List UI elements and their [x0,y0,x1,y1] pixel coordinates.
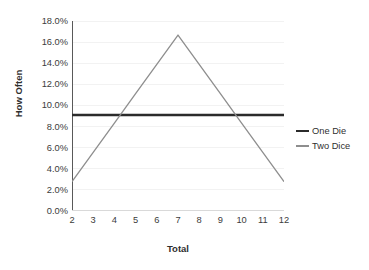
legend-item-label: Two Dice [312,140,350,152]
gridlines [72,21,284,190]
y-tick-label: 2.0% [22,185,68,195]
x-axis-title: Total [72,243,284,254]
plot-svg [72,21,284,211]
legend-item-one-die[interactable]: One Die [296,124,369,138]
y-axis-tick-labels: 0.0%2.0%4.0%6.0%8.0%10.0%12.0%14.0%16.0%… [22,16,68,210]
y-tick-label: 4.0% [22,164,68,174]
y-tick-label: 16.0% [22,37,68,47]
y-tick-label: 10.0% [22,100,68,110]
series-lines [72,35,284,182]
legend-item-two-dice[interactable]: Two Dice [296,139,369,153]
x-tick-label: 12 [272,214,296,226]
x-axis-tick-labels: 23456789101112 [72,214,284,228]
y-tick-label: 8.0% [22,122,68,132]
y-tick-label: 6.0% [22,143,68,153]
y-tick-label: 18.0% [22,16,68,26]
legend-swatch-one-die-icon [296,130,309,133]
legend-swatch-two-dice-icon [296,145,309,146]
plot-area [72,21,284,211]
y-tick-label: 14.0% [22,58,68,68]
chart-container: How Often 0.0%2.0%4.0%6.0%8.0%10.0%12.0%… [0,0,369,270]
chart-legend: One DieTwo Dice [296,124,369,154]
y-tick-label: 12.0% [22,79,68,89]
legend-item-label: One Die [312,125,346,137]
series-line-two-dice [72,35,284,182]
